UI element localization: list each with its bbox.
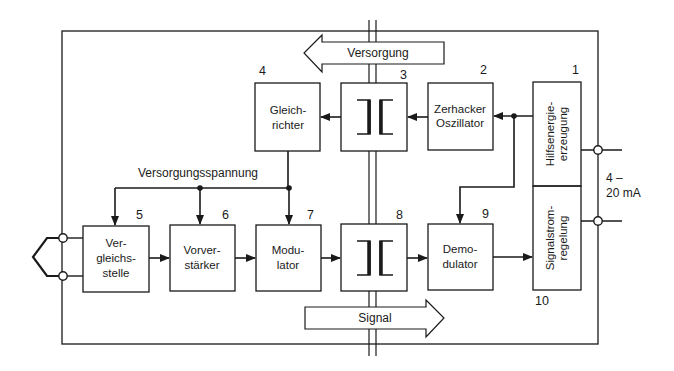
output-terminal — [594, 217, 602, 225]
block-10-label-line2: regelung — [557, 216, 569, 261]
block-3-number: 3 — [400, 68, 407, 82]
block-9-label-line2: dulator — [442, 258, 477, 270]
transformer-symbol-icon — [357, 241, 393, 275]
block-3-coupling-transformer: 3 — [341, 68, 407, 151]
signal-flow-arrow: Signal — [305, 300, 444, 337]
block-1-auxiliary-power: 1 Hilfsenergie- erzeugung — [533, 63, 581, 186]
block-8-number: 8 — [396, 208, 403, 222]
block-6-label-line1: Vorver- — [183, 244, 220, 256]
block-5-label-line1: Ver- — [105, 237, 126, 249]
block-6-number: 6 — [222, 208, 229, 222]
current-range-label-line2: 20 mA — [606, 186, 641, 200]
isolation-barrier — [369, 20, 376, 356]
block-2-chopper-oscillator: 2 Zerhacker Oszillator — [428, 63, 493, 150]
block-7-number: 7 — [307, 208, 314, 222]
supply-flow-label: Versorgung — [347, 46, 408, 60]
block-2-number: 2 — [480, 63, 487, 77]
thermocouple-input — [33, 234, 83, 280]
supply-voltage-label: Versorgungsspannung — [138, 166, 258, 180]
supply-flow-arrow: Versorgung — [304, 35, 444, 72]
block-6-label-line2: stärker — [184, 259, 219, 271]
block-5-number: 5 — [136, 208, 143, 222]
block-6-preamplifier: 6 Vorver- stärker — [170, 208, 235, 291]
current-loop-output: 4 – 20 mA — [581, 146, 641, 225]
output-terminal — [594, 146, 602, 154]
block-7-label-line2: lator — [277, 259, 300, 271]
block-diagram: Versorgung Signal 1 Hilfsenergie- erzeug… — [0, 0, 674, 371]
block-10-number: 10 — [535, 294, 549, 308]
block-7-label-line1: Modu- — [272, 244, 305, 256]
block-8-coupling-transformer: 8 — [341, 208, 407, 291]
block-4-label-line1: Gleich- — [270, 104, 307, 116]
signal-flow-label: Signal — [358, 311, 391, 325]
block-1-label-line1: Hilfsenergie- — [544, 102, 556, 167]
block-2-label-line1: Zerhacker — [434, 103, 486, 115]
block-5-label-line2: gleichs- — [96, 252, 136, 264]
input-terminal — [59, 234, 67, 242]
block-1-label-line2: erzeugung — [557, 107, 569, 161]
transformer-symbol-icon — [357, 100, 393, 134]
block-1-number: 1 — [572, 63, 579, 77]
thermocouple-icon — [33, 238, 59, 276]
current-range-label-line1: 4 – — [606, 171, 623, 185]
block-10-signal-current-control: 10 Signalstrom- regelung — [533, 186, 581, 308]
block-5-reference-junction: 5 Ver- gleichs- stelle — [83, 208, 149, 292]
connections — [115, 113, 533, 258]
block-5-label-line3: stelle — [103, 267, 130, 279]
block-2-label-line2: Oszillator — [436, 117, 484, 129]
block-4-number: 4 — [259, 64, 266, 78]
block-9-label-line1: Demo- — [443, 243, 478, 255]
block-4-rectifier: 4 Gleich- richter — [255, 64, 320, 151]
input-terminal — [59, 272, 67, 280]
block-9-number: 9 — [482, 207, 489, 221]
block-4-label-line2: richter — [272, 119, 304, 131]
block-10-label-line1: Signalstrom- — [544, 206, 556, 271]
